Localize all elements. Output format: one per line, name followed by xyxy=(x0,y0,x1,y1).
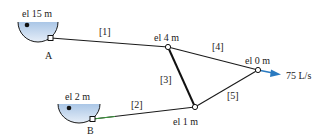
pipe-1-label: [1] xyxy=(99,27,111,37)
node-a xyxy=(48,36,53,41)
pipe-5-label: [5] xyxy=(227,91,239,101)
pipe-network-diagram xyxy=(0,0,327,140)
pipe-3-label: [3] xyxy=(160,75,172,85)
outflow-arrow-icon xyxy=(258,70,281,78)
pipe-4-label: [4] xyxy=(212,42,224,52)
reservoir-b-label: B xyxy=(87,126,94,136)
pipe-2-label: [2] xyxy=(131,100,143,110)
junction-el-4 xyxy=(165,44,170,49)
junction-el-0 xyxy=(255,67,260,72)
reservoir-a-elevation: el 15 m xyxy=(22,9,52,19)
reservoir-a-label: A xyxy=(45,51,52,61)
node-b xyxy=(90,117,95,122)
pipe-5 xyxy=(195,70,258,107)
junction-el-4-label: el 4 m xyxy=(154,33,179,43)
pipe-3 xyxy=(168,47,195,107)
junction-el-1-label: el 1 m xyxy=(173,117,198,127)
junction-el-1 xyxy=(192,104,197,109)
reservoir-b-elevation: el 2 m xyxy=(65,92,90,102)
outflow-label: 75 L/s xyxy=(286,71,311,81)
junction-el-0-label: el 0 m xyxy=(245,56,270,66)
pipe-1 xyxy=(51,38,168,47)
